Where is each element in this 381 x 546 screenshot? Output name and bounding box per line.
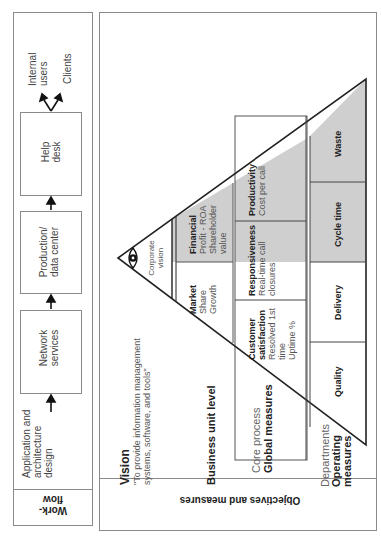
- pyramid-cell-delivery: Delivery: [333, 285, 343, 320]
- pyramid-cell-quality: Quality: [333, 366, 343, 397]
- pyramid-cell-customer-satisfaction: Customer satisfaction Resolved 1st time …: [247, 308, 297, 360]
- pyramid-cell-productivity: Productivity Cost per call: [247, 164, 267, 216]
- core-process-label: Core process Global measures: [250, 384, 274, 473]
- pyramid-cell-waste: Waste: [333, 131, 343, 157]
- departments-label: Departments Operating measures: [320, 424, 353, 487]
- pyramid-cell-responsiveness: Responsiveness Real-time call closures: [247, 225, 277, 296]
- business-unit-level-label: Business unit level: [205, 385, 217, 485]
- pyramid-cell-market: Market Share Growth: [188, 285, 218, 314]
- pyramid-cell-cycle-time: Cycle time: [333, 202, 343, 247]
- pyramid-cell-financial: Financial Profit - ROA Shareholder value: [188, 205, 228, 254]
- pyramid-apex-corporate-vision: Corporate vision: [147, 233, 165, 283]
- vision-block: Vision "To provide information managemen…: [119, 265, 152, 485]
